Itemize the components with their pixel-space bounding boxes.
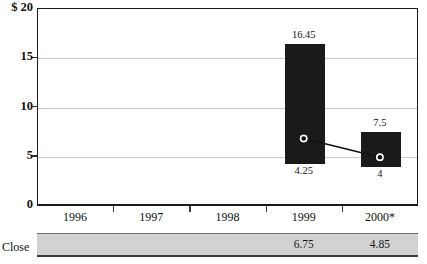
x-axis-category-label: 1998 (216, 210, 240, 225)
y-axis-tick-label: 15 (0, 49, 33, 64)
bar-2000 (361, 132, 401, 167)
close-row-label: Close (2, 240, 29, 255)
x-axis-category-label: 1996 (63, 210, 87, 225)
plot-inner (38, 9, 417, 204)
gridline (38, 58, 417, 59)
x-axis-tick-mark (113, 206, 114, 212)
x-axis-category-label: 1997 (139, 210, 163, 225)
x-axis-tick-mark (266, 206, 267, 212)
y-axis-tick-label: 0 (0, 197, 33, 212)
y-axis-tick-label: 10 (0, 99, 33, 114)
close-row-value: 6.75 (294, 238, 314, 250)
y-axis-tick-label: $ 20 (0, 0, 33, 15)
close-row-band (37, 233, 418, 257)
close-row-value: 4.85 (370, 238, 390, 250)
gridline (38, 108, 417, 109)
x-axis-tick-mark (189, 206, 190, 212)
x-axis-category-label: 2000* (365, 210, 395, 225)
x-axis-tick-mark (342, 206, 343, 212)
y-axis-tick-label: 5 (0, 148, 33, 163)
bar-high-label: 7.5 (373, 117, 386, 128)
bar-1999 (285, 44, 325, 164)
plot-area (37, 8, 418, 205)
bar-low-label: 4.25 (295, 165, 313, 176)
cropped-title-sliver (120, 0, 320, 2)
bar-low-label: 4 (377, 168, 382, 179)
x-axis-category-label: 1999 (292, 210, 316, 225)
x-axis-line (37, 205, 418, 206)
chart-page: $ 20151050 16.454.257.54 199619971998199… (0, 0, 427, 264)
bar-high-label: 16.45 (292, 29, 316, 40)
